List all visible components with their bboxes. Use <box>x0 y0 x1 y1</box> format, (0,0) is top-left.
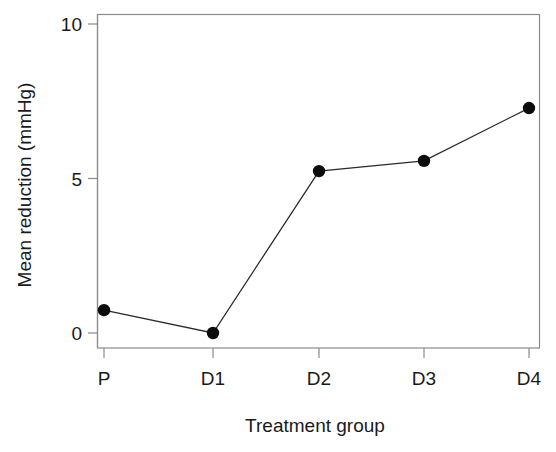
data-point-d3 <box>418 155 430 167</box>
data-point-d2 <box>313 165 325 177</box>
x-tick-label-d1: D1 <box>201 368 225 389</box>
y-tick-label-0: 0 <box>71 323 82 344</box>
plot-frame <box>98 15 540 349</box>
chart-figure: 10 5 0 P D1 D2 D3 D4 Treatment group Mea… <box>0 0 556 452</box>
y-axis-ticks <box>88 24 98 333</box>
x-tick-label-d3: D3 <box>412 368 436 389</box>
y-tick-label-10: 10 <box>61 14 82 35</box>
x-tick-label-d2: D2 <box>307 368 331 389</box>
y-tick-label-5: 5 <box>71 169 82 190</box>
y-axis-title: Mean reduction (mmHg) <box>14 83 35 288</box>
line-chart: 10 5 0 P D1 D2 D3 D4 Treatment group Mea… <box>0 0 556 452</box>
data-point-p <box>98 304 110 316</box>
data-point-d1 <box>207 327 219 339</box>
x-tick-label-d4: D4 <box>517 368 542 389</box>
x-axis-ticks <box>104 348 529 358</box>
data-point-d4 <box>523 102 535 114</box>
x-tick-label-p: P <box>98 368 111 389</box>
x-axis-title: Treatment group <box>245 415 385 436</box>
